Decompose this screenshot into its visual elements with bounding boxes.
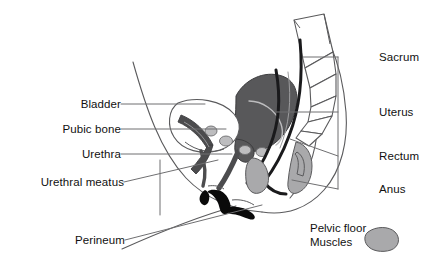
label-sacrum: Sacrum [379, 51, 419, 64]
pelvic-floor-muscle-anterior [246, 158, 269, 193]
structure-node-2 [220, 136, 233, 146]
lower-body-curve [122, 206, 236, 249]
label-urethral-meatus-text: Urethral meatus [41, 176, 124, 188]
label-bladder: Bladder [0, 98, 121, 111]
label-urethra-text: Urethra [82, 148, 121, 160]
label-anus-text: Anus [379, 183, 406, 195]
label-perineum: Perineum [0, 234, 125, 247]
label-urethral-meatus: Urethral meatus [0, 176, 124, 189]
urethra [201, 151, 205, 186]
label-rectum-text: Rectum [379, 150, 419, 162]
pelvic-anatomy-illustration [0, 0, 446, 272]
structure-node-3 [239, 146, 251, 155]
introitus-line-2 [232, 200, 254, 205]
diagram-canvas: Bladder Pubic bone Urethra Urethral meat… [0, 0, 446, 272]
legend-line-2: Muscles [310, 235, 366, 249]
labial-fold-mark [200, 190, 210, 205]
structure-node-1 [205, 126, 217, 136]
label-pubic-bone-text: Pubic bone [62, 123, 121, 135]
pelvic-floor-legend-swatch [365, 228, 399, 252]
label-urethra: Urethra [0, 148, 121, 161]
legend-line-1: Pelvic floor [310, 221, 366, 235]
label-rectum: Rectum [379, 150, 419, 163]
leader-perineum [125, 205, 262, 240]
label-bladder-text: Bladder [81, 98, 121, 110]
label-anus: Anus [379, 183, 406, 196]
legend-pelvic-floor-muscles: Pelvic floor Muscles [310, 221, 366, 249]
label-uterus-text: Uterus [379, 106, 413, 118]
label-perineum-text: Perineum [75, 234, 125, 246]
label-pubic-bone: Pubic bone [0, 123, 121, 136]
label-sacrum-text: Sacrum [379, 51, 419, 63]
label-uterus: Uterus [379, 106, 413, 119]
vagina [219, 152, 238, 188]
